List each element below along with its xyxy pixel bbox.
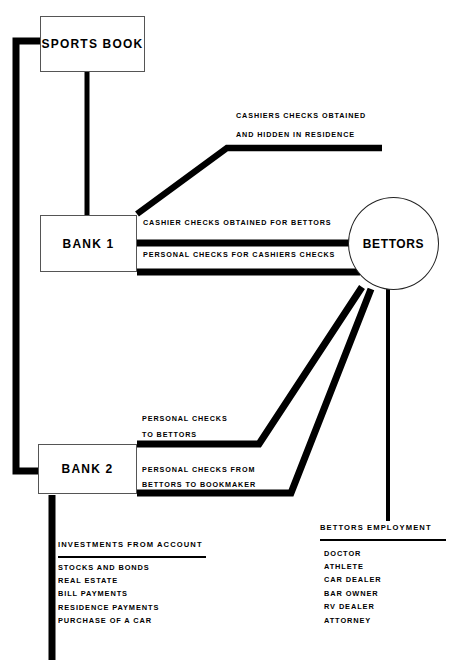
flow-label-personal-checks-to-bettors-line2: TO BETTORS: [142, 431, 197, 438]
flow-label-cashiers-hidden-line2: AND HIDDEN IN RESIDENCE: [236, 131, 355, 138]
node-bettors[interactable]: BETTORS: [348, 197, 439, 290]
investments-section: INVESTMENTS FROM ACCOUNT STOCKS AND BOND…: [58, 541, 238, 631]
node-bank-1[interactable]: BANK 1: [40, 215, 137, 272]
list-item: BAR OWNER: [324, 590, 450, 597]
list-item: BILL PAYMENTS: [58, 590, 238, 597]
list-item: RESIDENCE PAYMENTS: [58, 604, 238, 611]
flow-label-personal-checks-from-bettors-line2: BETTORS TO BOOKMAKER: [142, 481, 256, 488]
list-item: ATHLETE: [324, 563, 450, 570]
line-personal-checks-from-bettors: [137, 289, 371, 493]
employment-list: DOCTOR ATHLETE CAR DEALER BAR OWNER RV D…: [324, 550, 450, 624]
node-sports-book[interactable]: SPORTS BOOK: [40, 16, 145, 72]
flow-diagram: SPORTS BOOK BANK 1 BANK 2 BETTORS CASHIE…: [0, 0, 452, 666]
line-sportsbook-to-bank2: [16, 41, 40, 471]
list-item: RV DEALER: [324, 603, 450, 610]
list-item: DOCTOR: [324, 550, 450, 557]
employment-title: BETTORS EMPLOYMENT: [320, 524, 450, 532]
investments-title: INVESTMENTS FROM ACCOUNT: [58, 541, 238, 549]
investments-list: STOCKS AND BONDS REAL ESTATE BILL PAYMEN…: [58, 564, 238, 625]
list-item: PURCHASE OF A CAR: [58, 617, 238, 624]
line-cashiers-hidden: [137, 148, 382, 214]
node-bank-1-label: BANK 1: [63, 238, 115, 250]
list-item: ATTORNEY: [324, 617, 450, 624]
flow-label-cashiers-hidden-line1: CASHIERS CHECKS OBTAINED: [236, 112, 366, 119]
node-bank-2-label: BANK 2: [62, 463, 114, 475]
flow-label-personal-checks-to-bettors-line1: PERSONAL CHECKS: [142, 415, 228, 422]
employment-divider: [320, 539, 446, 541]
list-item: REAL ESTATE: [58, 577, 238, 584]
node-bank-2[interactable]: BANK 2: [38, 444, 137, 494]
list-item: STOCKS AND BONDS: [58, 564, 238, 571]
list-item: CAR DEALER: [324, 576, 450, 583]
employment-section: BETTORS EMPLOYMENT DOCTOR ATHLETE CAR DE…: [320, 524, 450, 630]
flow-label-personal-checks-for-cashiers: PERSONAL CHECKS FOR CASHIERS CHECKS: [143, 251, 335, 258]
flow-label-cashier-checks-for-bettors: CASHIER CHECKS OBTAINED FOR BETTORS: [143, 219, 332, 226]
flow-label-personal-checks-from-bettors-line1: PERSONAL CHECKS FROM: [142, 466, 255, 473]
investments-divider: [58, 556, 206, 558]
node-bettors-label: BETTORS: [363, 238, 424, 250]
node-sports-book-label: SPORTS BOOK: [42, 38, 144, 50]
